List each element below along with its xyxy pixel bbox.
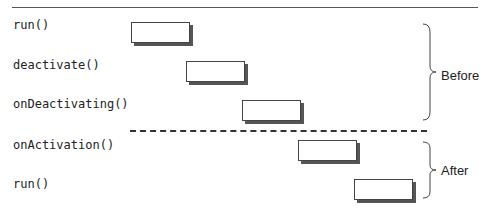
phase-label-after: After: [441, 163, 468, 178]
call-label-run-1: run(): [13, 18, 49, 32]
timeline-box-run-1: [131, 22, 190, 43]
timeline-box-onactivation: [298, 140, 357, 161]
timeline-box-ondeactivating: [242, 100, 301, 121]
call-label-run-2: run(): [13, 177, 49, 191]
timeline-box-deactivate: [186, 61, 245, 82]
call-label-ondeactivating: onDeactivating(): [13, 97, 129, 111]
phase-label-before: Before: [441, 68, 479, 83]
phase-divider-dashed-line: [130, 130, 427, 132]
call-label-deactivate: deactivate(): [13, 58, 100, 72]
before-brace-icon: [420, 22, 440, 122]
top-rule: [12, 7, 478, 8]
after-brace-icon: [420, 140, 440, 200]
call-label-onactivation: onActivation(): [13, 138, 114, 152]
timeline-box-run-2: [354, 179, 413, 200]
